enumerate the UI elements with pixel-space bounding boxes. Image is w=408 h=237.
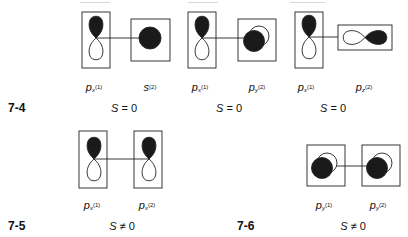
overlap-value-7-5: S ≠ 0 xyxy=(109,221,135,232)
orbital-label-7-4-2b: py(2) xyxy=(249,82,265,95)
orbital-label-7-4-3a: px(1) xyxy=(298,82,314,95)
overlap-value-7-4-3: S = 0 xyxy=(320,103,346,114)
orbital-label-7-5-b: px(2) xyxy=(139,200,155,213)
fig-7-4-pair-2 xyxy=(188,12,276,68)
overlap-value-7-4-1: S = 0 xyxy=(111,103,137,114)
orbital-label-7-6-b: py(2) xyxy=(370,200,386,213)
orbital-label-7-4-1a: px(1) xyxy=(86,82,102,95)
py-orbital-icon xyxy=(244,26,270,52)
fig-7-5-pair xyxy=(79,131,162,188)
py-orbital-icon xyxy=(367,153,393,179)
orbital-label-7-5-a: px(1) xyxy=(84,200,100,213)
orbital-overlap-diagram xyxy=(0,0,408,237)
figure-number-7-5: 7-5 xyxy=(8,220,25,232)
orbital-label-7-4-3b: pz(2) xyxy=(356,82,372,95)
fig-7-4-pair-3 xyxy=(295,12,392,68)
s-orbital-icon xyxy=(139,27,161,49)
orbital-label-7-4-1b: s(2) xyxy=(144,82,157,95)
fig-7-4-pair-1 xyxy=(82,12,170,68)
orbital-label-7-4-2a: px(1) xyxy=(192,82,208,95)
figure-number-7-4: 7-4 xyxy=(8,102,25,114)
figure-number-7-6: 7-6 xyxy=(237,220,254,232)
overlap-value-7-4-2: S = 0 xyxy=(216,103,242,114)
orbital-label-7-6-a: py(1) xyxy=(316,200,332,213)
fig-7-6-pair xyxy=(307,145,400,186)
overlap-value-7-6: S ≠ 0 xyxy=(340,221,366,232)
py-orbital-icon xyxy=(312,153,338,179)
